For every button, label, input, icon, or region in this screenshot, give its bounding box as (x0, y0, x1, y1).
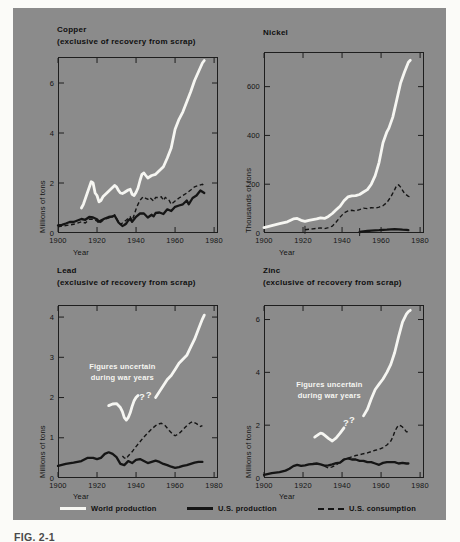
svg-text:1: 1 (50, 433, 54, 442)
lead-question-mark: ? (146, 389, 152, 400)
copper-y-axis-label: Millions of tons (38, 180, 47, 233)
svg-text:1940: 1940 (127, 236, 145, 245)
zinc-world-line (364, 310, 411, 416)
svg-text:1940: 1940 (127, 481, 145, 490)
svg-text:2: 2 (256, 421, 260, 430)
lead-war-years-note: during war years (91, 373, 154, 382)
legend-item-us-production: U.S. production (187, 504, 277, 513)
nickel-y-axis-label: Thousands of tons (244, 168, 253, 233)
zinc-question-mark: ? (349, 414, 355, 425)
zinc-title-line1: Zinc (263, 265, 402, 277)
lead-y-axis-label: Millions of tons (38, 425, 47, 478)
copper-title: Copper (exclusive of recovery from scrap… (57, 24, 196, 48)
zinc-world-line (315, 428, 344, 441)
svg-text:1960: 1960 (372, 481, 390, 490)
svg-text:1980: 1980 (205, 236, 223, 245)
svg-text:2: 2 (50, 393, 54, 402)
svg-text:1920: 1920 (88, 481, 106, 490)
lead-plot: 1900192019401960198001234Figures uncerta… (58, 305, 218, 478)
lead-title: Lead (exclusive of recovery from scrap) (57, 265, 196, 289)
legend-item-us-consumption: U.S. consumption (318, 504, 416, 513)
lead-question-mark: ? (139, 391, 145, 402)
svg-text:1920: 1920 (294, 481, 312, 490)
lead-title-line1: Lead (57, 265, 196, 277)
nickel-title: Nickel (263, 27, 288, 39)
svg-text:4: 4 (256, 368, 260, 377)
lead-x-axis-label: Year (73, 492, 89, 501)
lead-war-years-note: Figures uncertain (89, 362, 156, 371)
svg-text:1940: 1940 (333, 481, 351, 490)
svg-text:4: 4 (50, 129, 54, 138)
figure-page: Copper (exclusive of recovery from scrap… (0, 0, 460, 542)
svg-text:600: 600 (247, 82, 260, 91)
legend-item-world-production: World production (60, 504, 157, 513)
copper-x-axis-label: Year (73, 248, 89, 257)
zinc-x-axis-label: Year (279, 492, 295, 501)
nickel-us_cons-line (305, 185, 410, 230)
svg-text:1980: 1980 (411, 236, 429, 245)
legend-label: U.S. production (218, 504, 277, 513)
world-production-line-swatch (60, 507, 86, 510)
copper-plot: 190019201940196019800246 (58, 57, 218, 233)
nickel-x-axis-label: Year (279, 248, 295, 257)
svg-text:1920: 1920 (294, 236, 312, 245)
svg-text:3: 3 (50, 353, 54, 362)
lead-world-line (156, 315, 205, 397)
svg-text:0: 0 (256, 474, 260, 483)
svg-text:0: 0 (50, 474, 54, 483)
svg-text:1940: 1940 (333, 236, 351, 245)
svg-text:1980: 1980 (411, 481, 429, 490)
svg-text:0: 0 (50, 229, 54, 238)
lead-us_cons-line (122, 422, 202, 459)
zinc-war-years-note: Figures uncertain (296, 380, 363, 389)
svg-text:1960: 1960 (166, 236, 184, 245)
zinc-war-years-note: during war years (298, 391, 361, 400)
svg-text:1960: 1960 (166, 481, 184, 490)
lead-title-line2: (exclusive of recovery from scrap) (57, 277, 196, 289)
svg-text:400: 400 (247, 131, 260, 140)
zinc-title: Zinc (exclusive of recovery from scrap) (263, 265, 402, 289)
figure-panel: Copper (exclusive of recovery from scrap… (13, 8, 446, 520)
svg-text:1960: 1960 (372, 236, 390, 245)
nickel-title-line1: Nickel (263, 27, 288, 39)
nickel-plot: 190019201940196019800200400600 (264, 52, 424, 233)
figure-caption: FIG. 2-1 (14, 531, 55, 542)
copper-world-line (81, 61, 204, 209)
svg-text:4: 4 (50, 313, 54, 322)
copper-title-line1: Copper (57, 24, 196, 36)
nickel-world-line (264, 60, 410, 227)
legend-label: U.S. consumption (349, 504, 416, 513)
zinc-us_prod-line (264, 459, 408, 475)
svg-text:0: 0 (256, 229, 260, 238)
copper-title-line2: (exclusive of recovery from scrap) (57, 36, 196, 48)
svg-text:1980: 1980 (205, 481, 223, 490)
svg-text:6: 6 (256, 315, 260, 324)
zinc-plot: 190019201940196019800246Figures uncertai… (264, 305, 424, 478)
zinc-title-line2: (exclusive of recovery from scrap) (263, 277, 402, 289)
copper-us_prod-line (58, 191, 204, 227)
us-consumption-line-swatch (318, 508, 344, 510)
legend-label: World production (91, 504, 157, 513)
svg-text:200: 200 (247, 180, 260, 189)
zinc-y-axis-label: Millions of tons (244, 425, 253, 478)
svg-text:2: 2 (50, 179, 54, 188)
svg-text:1920: 1920 (88, 236, 106, 245)
svg-text:6: 6 (50, 79, 54, 88)
nickel-us_prod-line (360, 229, 409, 232)
us-production-line-swatch (187, 507, 213, 510)
lead-world-line (109, 396, 138, 421)
